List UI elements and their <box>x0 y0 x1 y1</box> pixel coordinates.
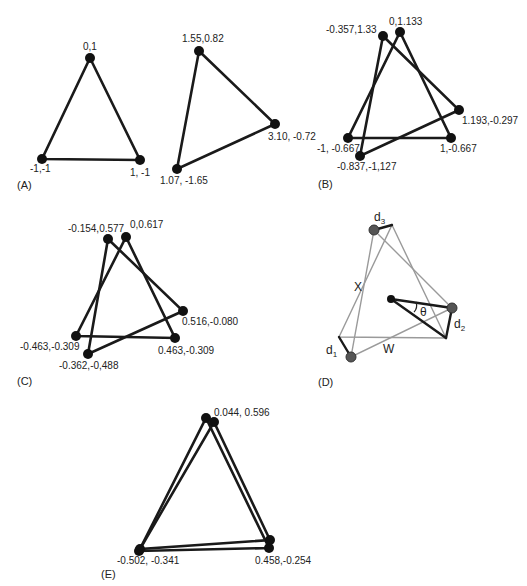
vertex-coordinate-label: 0,1 <box>83 41 97 52</box>
vertex-coordinate-label: -1,-1 <box>30 163 51 174</box>
panel-label-d: (D) <box>318 376 333 388</box>
labels-layer: (A)0,11, -1-1,-11.55,0.823.10, -0.721.07… <box>17 16 519 580</box>
vertex-coordinate-label: 1.07, -1.65 <box>160 175 208 186</box>
panel-label-e: (E) <box>101 568 116 580</box>
nodes-layer <box>37 27 464 556</box>
vertex-coordinate-label: 0,1.133 <box>389 16 423 27</box>
vertex-coordinate-label: 0.044, 0.596 <box>214 407 270 418</box>
triangle-outline <box>177 51 275 169</box>
vertex-coordinate-label: -0.362,-0,488 <box>59 360 119 371</box>
vertex-coordinate-label: -0.463,-0.309 <box>20 341 80 352</box>
vertex-node <box>135 155 145 165</box>
offset-d2-label: d2 <box>454 317 466 333</box>
vertex-coordinate-label: 1,-0.667 <box>440 143 477 154</box>
offset-d3-label: d3 <box>374 210 386 226</box>
vertex-coordinate-label: 0.458,-0.254 <box>255 555 312 566</box>
vertex-coordinate-label: -0.502, -0.341 <box>117 555 180 566</box>
vertex-node <box>85 53 95 63</box>
vertex-node <box>446 133 456 143</box>
vertex-node <box>209 417 219 427</box>
vertex-coordinate-label: -0.357,1.33 <box>326 24 377 35</box>
vertex-coordinate-label: 0.463,-0.309 <box>158 345 215 356</box>
vertex-node <box>194 46 204 56</box>
vertex-node <box>135 544 145 554</box>
side-label-x: X <box>354 280 362 294</box>
vertex-coordinate-label: -1, -0.667 <box>317 143 360 154</box>
panel-label-c: (C) <box>17 375 32 387</box>
vertex-coordinate-label: 0.516,-0.080 <box>182 316 239 327</box>
vertex-node <box>178 306 188 316</box>
vertex-node <box>447 303 457 313</box>
vertex-coordinate-label: 1.55,0.82 <box>182 33 224 44</box>
vertex-coordinate-label: 1.193,-0.297 <box>462 115 519 126</box>
triangle-outline <box>42 58 140 160</box>
vertex-node <box>346 352 356 362</box>
panel-label-b: (B) <box>318 178 333 190</box>
vertex-node <box>270 119 280 129</box>
panel-label-a: (A) <box>17 179 32 191</box>
vertex-coordinate-label: 1, -1 <box>130 167 150 178</box>
centroid-node <box>387 295 395 303</box>
vertex-node <box>71 331 81 341</box>
vertex-node <box>265 535 275 545</box>
side-label-w: W <box>383 342 395 356</box>
vertex-coordinate-label: -0.837,-1,127 <box>337 161 397 172</box>
vertex-node <box>172 164 182 174</box>
triangle-outline <box>140 422 270 549</box>
triangle-figure: (A)0,11, -1-1,-11.55,0.823.10, -0.721.07… <box>0 0 527 586</box>
vertex-coordinate-label: 3.10, -0.72 <box>268 131 316 142</box>
vertex-coordinate-label: -0.154,0.577 <box>68 223 125 234</box>
vertex-node <box>454 105 464 115</box>
offset-d1-label: d1 <box>326 343 338 359</box>
vertex-node <box>369 225 379 235</box>
theta-label: θ <box>420 305 427 319</box>
vertex-node <box>170 333 180 343</box>
vertex-node <box>395 27 405 37</box>
vertex-node <box>378 31 388 41</box>
vertex-node <box>343 133 353 143</box>
vertex-node <box>103 234 113 244</box>
vertex-node <box>83 349 93 359</box>
edges-layer <box>42 32 459 551</box>
vertex-coordinate-label: 0,0.617 <box>130 219 164 230</box>
